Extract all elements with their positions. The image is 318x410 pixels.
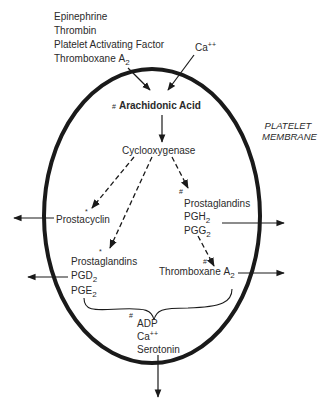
- pgh2-label: PGH2: [184, 211, 210, 223]
- calcium-input-label: Ca++: [195, 42, 216, 54]
- prostaglandins-right-mark: #: [179, 188, 183, 195]
- cox-to-prostacyclin-arrow: [92, 157, 134, 208]
- pgg2-label: PGG2: [184, 225, 211, 237]
- released-mark: #: [129, 312, 133, 319]
- stimulus-thromboxane: Thromboxane A2: [54, 53, 130, 65]
- stimulus-epinephrine: Epinephrine: [54, 11, 107, 23]
- stimulus-paf: Platelet Activating Factor: [54, 39, 164, 51]
- pge2-label: PGE2: [71, 285, 97, 297]
- prostaglandins-left-label: Prostaglandins: [71, 256, 137, 268]
- calcium-released-label: Ca++: [137, 331, 158, 343]
- thromboxane-a2-label: Thromboxane A2: [159, 266, 235, 278]
- prostaglandins-right-label: Prostaglandins: [184, 198, 250, 210]
- arachidonic-acid-label: #Arachidonic Acid: [112, 100, 201, 113]
- serotonin-label: Serotonin: [137, 344, 180, 356]
- grouping-brace: [84, 289, 232, 320]
- pgd2-label: PGD2: [71, 270, 97, 282]
- prostaglandins-left-mark: *: [99, 248, 102, 255]
- platelet-membrane-label: PLATELET MEMBRANE: [262, 120, 314, 142]
- stimulus-thrombin: Thrombin: [54, 25, 96, 37]
- thromboxane-mark: #: [203, 258, 207, 265]
- adp-label: ADP: [137, 318, 158, 330]
- cox-to-prostaglandins-left-arrow: [110, 157, 152, 248]
- cyclooxygenase-label: Cyclooxygenase: [122, 145, 195, 157]
- prostacyclin-label: Prostacyclin: [56, 214, 110, 226]
- cox-to-prostaglandins-right-arrow: [172, 157, 188, 188]
